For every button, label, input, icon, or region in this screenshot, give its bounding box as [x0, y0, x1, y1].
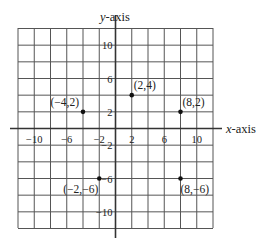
point-label: (8,2)	[183, 96, 205, 109]
y-tick-label: 10	[102, 40, 113, 51]
axes: x-axis y-axis	[10, 10, 256, 238]
point-label: (2,4)	[134, 79, 156, 92]
x-tick-label: −10	[26, 134, 42, 145]
data-point	[81, 110, 86, 115]
y-axis-label: y-axis	[98, 10, 130, 24]
x-tick-label: −6	[61, 134, 72, 145]
y-tick-label: 6	[107, 74, 112, 85]
data-point	[178, 110, 183, 115]
x-axis-label: x-axis	[225, 122, 256, 136]
point-label: (−2,−6)	[63, 183, 98, 196]
point-label: (−4,2)	[50, 96, 79, 109]
coordinate-plane: x-axis y-axis −10−6−226101062−2−6−10 (−4…	[0, 0, 264, 244]
data-point	[129, 93, 134, 98]
y-tick-label: 2	[107, 107, 112, 118]
y-tick-label: −6	[101, 174, 112, 185]
point-label: (8,−6)	[181, 183, 210, 196]
y-tick-label: −10	[96, 207, 112, 218]
y-tick-label: −2	[101, 140, 112, 151]
data-point	[178, 176, 183, 181]
x-tick-label: 6	[162, 134, 167, 145]
x-tick-label: 2	[129, 134, 134, 145]
x-tick-label: 10	[192, 134, 203, 145]
data-point	[97, 176, 102, 181]
